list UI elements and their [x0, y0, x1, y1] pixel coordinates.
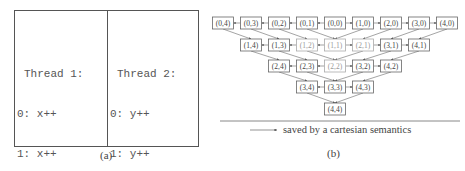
- transition-edge: [279, 51, 307, 60]
- svg-text:(3,1): (3,1): [384, 41, 399, 50]
- transition-edge: [279, 72, 307, 81]
- state-node: (3,0): [409, 17, 430, 29]
- state-node: (1,1): [325, 39, 346, 51]
- caption-b: (b): [327, 147, 340, 159]
- transition-edge: [307, 72, 335, 81]
- transition-edge: [391, 51, 419, 60]
- svg-text:(3,4): (3,4): [300, 83, 315, 92]
- transition-edge: [335, 51, 363, 60]
- transition-edge: [335, 29, 363, 39]
- state-node: (3,2): [353, 60, 374, 72]
- transition-edge: [363, 72, 391, 81]
- state-graph: (0,4)(0,3)(0,2)(0,1)(0,0)(1,0)(2,0)(3,0)…: [0, 0, 465, 171]
- state-node: (4,3): [353, 81, 374, 93]
- state-node: (2,1): [353, 39, 374, 51]
- transition-edge: [419, 29, 447, 39]
- svg-text:(4,1): (4,1): [412, 41, 427, 50]
- state-node: (1,2): [297, 39, 318, 51]
- state-node: (3,3): [325, 81, 346, 93]
- transition-edge: [307, 51, 335, 60]
- transition-edge: [251, 29, 279, 39]
- svg-text:(4,4): (4,4): [328, 105, 343, 114]
- svg-text:(0,3): (0,3): [244, 19, 259, 28]
- transition-edge: [335, 93, 363, 103]
- state-node: (2,2): [325, 60, 346, 72]
- svg-text:(1,2): (1,2): [300, 41, 315, 50]
- transition-edge: [279, 29, 307, 39]
- state-node: (0,3): [241, 17, 262, 29]
- state-node: (4,0): [437, 17, 458, 29]
- svg-text:(2,1): (2,1): [356, 41, 371, 50]
- svg-text:(4,0): (4,0): [440, 19, 455, 28]
- svg-text:(1,3): (1,3): [272, 41, 287, 50]
- svg-text:(1,0): (1,0): [356, 19, 371, 28]
- transition-edge: [251, 51, 279, 60]
- state-node: (3,4): [297, 81, 318, 93]
- svg-text:(1,4): (1,4): [244, 41, 259, 50]
- state-node: (4,1): [409, 39, 430, 51]
- state-node: (3,1): [381, 39, 402, 51]
- state-node: (1,0): [353, 17, 374, 29]
- svg-text:(0,4): (0,4): [216, 19, 231, 28]
- state-node: (1,4): [241, 39, 262, 51]
- svg-text:(4,3): (4,3): [356, 83, 371, 92]
- svg-text:(0,0): (0,0): [328, 19, 343, 28]
- svg-text:(1,1): (1,1): [328, 41, 343, 50]
- state-node: (4,2): [381, 60, 402, 72]
- state-node: (1,3): [269, 39, 290, 51]
- svg-text:(3,2): (3,2): [356, 62, 371, 71]
- state-node: (0,0): [325, 17, 346, 29]
- transition-edge: [307, 93, 335, 103]
- transition-edge: [223, 29, 251, 39]
- state-node: (4,4): [325, 103, 346, 115]
- state-node: (2,3): [297, 60, 318, 72]
- svg-text:(2,4): (2,4): [272, 62, 287, 71]
- state-node: (2,0): [381, 17, 402, 29]
- svg-text:(2,0): (2,0): [384, 19, 399, 28]
- state-node: (0,4): [213, 17, 234, 29]
- svg-text:(3,3): (3,3): [328, 83, 343, 92]
- state-node: (0,1): [297, 17, 318, 29]
- svg-text:(4,2): (4,2): [384, 62, 399, 71]
- transition-edge: [307, 29, 335, 39]
- transition-edge: [391, 29, 419, 39]
- svg-text:(3,0): (3,0): [412, 19, 427, 28]
- legend-label: saved by a cartesian semantics: [283, 124, 411, 135]
- transition-edge: [363, 51, 391, 60]
- state-node: (2,4): [269, 60, 290, 72]
- state-node: (0,2): [269, 17, 290, 29]
- svg-text:(0,1): (0,1): [300, 19, 315, 28]
- transition-edge: [335, 72, 363, 81]
- svg-text:(2,3): (2,3): [300, 62, 315, 71]
- transition-edge: [363, 29, 391, 39]
- svg-text:(0,2): (0,2): [272, 19, 287, 28]
- svg-text:(2,2): (2,2): [328, 62, 343, 71]
